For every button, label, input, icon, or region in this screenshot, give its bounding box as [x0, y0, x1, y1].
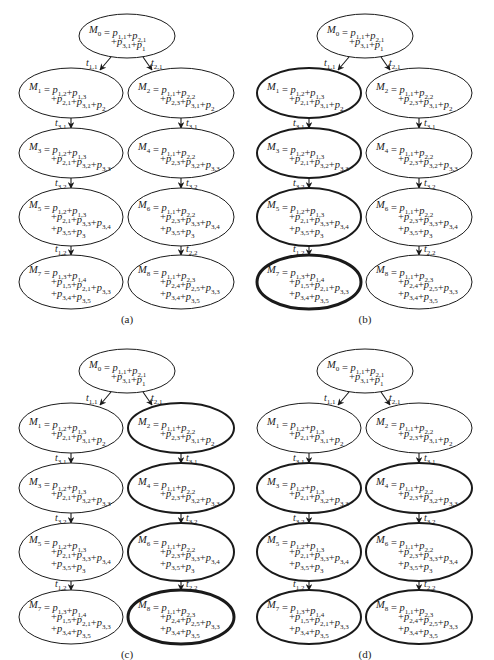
subscript: 3,5	[82, 297, 91, 305]
panel-c: t1,1t2,1t3,1t3,1t3,2t3,2t1,2t2,2M0 = p1,…	[19, 349, 234, 660]
subscript: 2	[449, 105, 453, 113]
subscript: 3,3	[340, 500, 349, 508]
caption-b: (b)	[359, 313, 372, 326]
state-node-M3: M3 = p1,2+p1,3+p2,1+p3,2+p3,3	[257, 463, 361, 513]
state-node-M3: M3 = p1,2+p1,3+p2,1+p3,2+p3,3	[257, 128, 361, 178]
subscript: 1	[142, 45, 146, 53]
reachability-graph-figure: t1,1t2,1t3,1t3,1t3,2t3,2t1,2t2,2M0 = p1,…	[0, 0, 494, 660]
subscript: 3,5	[429, 297, 438, 305]
arrow-icon	[100, 57, 111, 70]
subscript: 3,3	[449, 165, 458, 173]
state-node-M6: M6 = p1,1+p2,2+p2,3+p3,3+p3,4+p3,5+p3	[128, 188, 234, 246]
subscript: 3,3	[102, 288, 111, 296]
state-node-M8: M8 = p1,1+p2,3+p2,4+p2,5+p3,3+p3,4+p3,5	[128, 255, 234, 309]
subscript: 3	[320, 232, 324, 240]
arrow-icon	[338, 57, 349, 70]
subscript: 3,3	[211, 623, 220, 631]
panel-a: t1,1t2,1t3,1t3,1t3,2t3,2t1,2t2,2M0 = p1,…	[19, 14, 234, 326]
state-node-M3: M3 = p1,2+p1,3+p2,1+p3,2+p3,3	[19, 463, 123, 513]
subscript: 3	[82, 232, 86, 240]
state-node-M4: M4 = p1,1+p2,2+p2,3+p3,2+p3,3	[128, 128, 234, 178]
edge-M0-M2: t2,1	[143, 392, 163, 406]
subscript: 3,5	[429, 632, 438, 640]
subscript: 3,3	[211, 288, 220, 296]
subscript: 3,3	[102, 165, 111, 173]
state-node-M3: M3 = p1,2+p1,3+p2,1+p3,2+p3,3	[19, 128, 123, 178]
state-node-M1: M1 = p1,2+p1,3+p2,1+p3,1+p2	[257, 68, 361, 118]
edge-M0-M1: t1,1	[86, 57, 111, 71]
state-node-M2: M2 = p1,1+p2,2+p2,3+p3,1+p2	[128, 403, 234, 453]
subscript: 3,4	[340, 223, 349, 231]
transition-label: t2,1	[151, 57, 163, 71]
arrow-icon	[338, 392, 349, 405]
subscript: 1	[380, 45, 384, 53]
state-node-M2: M2 = p1,1+p2,2+p2,3+p3,1+p2	[366, 403, 472, 453]
state-node-M0: M0 = p1,1+p2,1+p3,1+p1	[317, 349, 413, 393]
subscript: 3	[82, 567, 86, 575]
subscript: 3,3	[340, 288, 349, 296]
caption-c: (c)	[121, 648, 134, 660]
subscript: 1	[142, 380, 146, 388]
state-node-M5: M5 = p1,2+p1,3+p2,1+p3,3+p3,4+p3,5+p3	[19, 523, 123, 581]
subscript: 3,5	[320, 297, 329, 305]
state-node-M5: M5 = p1,2+p1,3+p2,1+p3,3+p3,4+p3,5+p3	[257, 188, 361, 246]
subscript: 3,4	[340, 558, 349, 566]
edge-M0-M1: t1,1	[86, 392, 111, 406]
caption-d: (d)	[359, 648, 372, 660]
state-node-M1: M1 = p1,2+p1,3+p2,1+p3,1+p2	[257, 403, 361, 453]
state-node-M8: M8 = p1,1+p2,3+p2,4+p2,5+p3,3+p3,4+p3,5	[128, 590, 234, 644]
state-node-M4: M4 = p1,1+p2,2+p2,3+p3,2+p3,3	[128, 463, 234, 513]
subscript: 2	[102, 105, 106, 113]
state-node-M6: M6 = p1,1+p2,2+p2,3+p3,3+p3,4+p3,5+p3	[366, 523, 472, 581]
subscript: 3,3	[449, 623, 458, 631]
edge-M0-M2: t2,1	[381, 392, 401, 406]
subscript: 3	[429, 567, 433, 575]
state-node-M2: M2 = p1,1+p2,2+p2,3+p3,1+p2	[128, 68, 234, 118]
state-node-M1: M1 = p1,2+p1,3+p2,1+p3,1+p2	[19, 403, 123, 453]
state-node-M6: M6 = p1,1+p2,2+p2,3+p3,3+p3,4+p3,5+p3	[128, 523, 234, 581]
transition-label: t2,1	[389, 392, 401, 406]
state-node-M5: M5 = p1,2+p1,3+p2,1+p3,3+p3,4+p3,5+p3	[19, 188, 123, 246]
state-node-M2: M2 = p1,1+p2,2+p2,3+p3,1+p2	[366, 68, 472, 118]
subscript: 3,4	[449, 558, 458, 566]
state-node-M1: M1 = p1,2+p1,3+p2,1+p3,1+p2	[19, 68, 123, 118]
subscript: 2	[340, 440, 344, 448]
subscript: 2	[340, 105, 344, 113]
subscript: 3	[191, 232, 195, 240]
subscript: 1	[380, 380, 384, 388]
subscript: 2	[449, 440, 453, 448]
state-node-M7: M7 = p1,3+p1,4+p1,5+p2,1+p3,3+p3,4+p3,5	[257, 590, 361, 644]
subscript: 3,3	[449, 500, 458, 508]
subscript: 3	[191, 567, 195, 575]
state-node-M0: M0 = p1,1+p2,1+p3,1+p1	[79, 349, 175, 393]
state-node-M0: M0 = p1,1+p2,1+p3,1+p1	[79, 14, 175, 58]
subscript: 3	[320, 567, 324, 575]
state-node-M7: M7 = p1,3+p1,4+p1,5+p2,1+p3,3+p3,4+p3,5	[257, 255, 361, 309]
subscript: 3,4	[102, 223, 111, 231]
state-node-M8: M8 = p1,1+p2,3+p2,4+p2,5+p3,3+p3,4+p3,5	[366, 590, 472, 644]
subscript: 3,3	[449, 288, 458, 296]
arrow-icon	[100, 392, 111, 405]
state-node-M0: M0 = p1,1+p2,1+p3,1+p1	[317, 14, 413, 58]
subscript: 3,5	[191, 632, 200, 640]
subscript: 3,3	[211, 500, 220, 508]
subscript: 3,3	[340, 165, 349, 173]
subscript: 3,5	[191, 297, 200, 305]
state-node-M7: M7 = p1,3+p1,4+p1,5+p2,1+p3,3+p3,4+p3,5	[19, 590, 123, 644]
state-node-M7: M7 = p1,3+p1,4+p1,5+p2,1+p3,3+p3,4+p3,5	[19, 255, 123, 309]
subscript: 3	[429, 232, 433, 240]
caption-a: (a)	[121, 313, 134, 326]
state-node-M6: M6 = p1,1+p2,2+p2,3+p3,3+p3,4+p3,5+p3	[366, 188, 472, 246]
state-node-M4: M4 = p1,1+p2,2+p2,3+p3,2+p3,3	[366, 463, 472, 513]
edge-M0-M2: t2,1	[143, 57, 163, 71]
subscript: 3,3	[102, 500, 111, 508]
state-node-M5: M5 = p1,2+p1,3+p2,1+p3,3+p3,4+p3,5+p3	[257, 523, 361, 581]
subscript: 3,5	[82, 632, 91, 640]
subscript: 3,3	[102, 623, 111, 631]
panel-d: t1,1t2,1t3,1t3,1t3,2t3,2t1,2t2,2M0 = p1,…	[257, 349, 472, 660]
subscript: 2	[211, 440, 215, 448]
subscript: 2	[102, 440, 106, 448]
subscript: 3,5	[320, 632, 329, 640]
subscript: 3,4	[449, 223, 458, 231]
subscript: 3,4	[211, 223, 220, 231]
